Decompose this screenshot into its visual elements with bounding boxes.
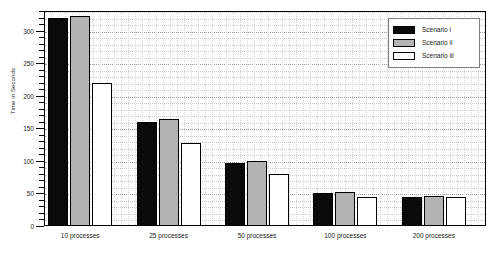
bar-group <box>48 11 112 226</box>
legend-item: Scenario iii <box>393 49 475 62</box>
legend-label: Scenario iii <box>422 52 454 59</box>
bar <box>181 143 201 226</box>
y-tick-label: 0 <box>0 223 34 230</box>
legend-swatch-scenario-iii <box>393 52 415 60</box>
bar <box>48 18 68 226</box>
x-tick-label: 50 processes <box>238 232 277 239</box>
x-tick-label: 200 processes <box>413 232 455 239</box>
bar <box>335 192 355 226</box>
bar <box>357 197 377 226</box>
y-tick-label: 300 <box>0 27 34 34</box>
bar-chart: Time in Seconds 050100150200250300 10 pr… <box>0 0 493 253</box>
bar <box>159 119 179 227</box>
bar <box>137 122 157 226</box>
legend-label: Scenario i <box>422 26 451 33</box>
legend-item: Scenario i <box>393 23 475 36</box>
y-tick-label: 250 <box>0 60 34 67</box>
y-tick-major <box>36 193 44 194</box>
bar-group <box>137 11 201 226</box>
bar-group <box>313 11 377 226</box>
bar <box>225 163 245 226</box>
y-tick-label: 150 <box>0 125 34 132</box>
legend-item: Scenario ii <box>393 36 475 49</box>
y-tick-label: 100 <box>0 157 34 164</box>
x-tick-label: 25 processes <box>149 232 188 239</box>
bar <box>70 16 90 226</box>
legend-label: Scenario ii <box>422 39 452 46</box>
legend: Scenario i Scenario ii Scenario iii <box>388 18 480 68</box>
y-tick-major <box>36 96 44 97</box>
bar <box>313 193 333 226</box>
bar <box>446 197 466 226</box>
y-tick-major <box>36 161 44 162</box>
bar <box>269 174 289 226</box>
legend-swatch-scenario-i <box>393 26 415 34</box>
x-tick-label: 100 processes <box>324 232 366 239</box>
y-tick-major <box>36 31 44 32</box>
y-tick-major <box>36 128 44 129</box>
bar <box>424 196 444 226</box>
y-tick-major <box>36 63 44 64</box>
bar <box>247 161 267 226</box>
x-tick-label: 10 processes <box>61 232 100 239</box>
y-tick-label: 50 <box>0 190 34 197</box>
bar-group <box>225 11 289 226</box>
bar <box>92 83 112 226</box>
y-tick-label: 200 <box>0 92 34 99</box>
y-tick-major <box>36 226 44 227</box>
bar <box>402 197 422 226</box>
legend-swatch-scenario-ii <box>393 39 415 47</box>
